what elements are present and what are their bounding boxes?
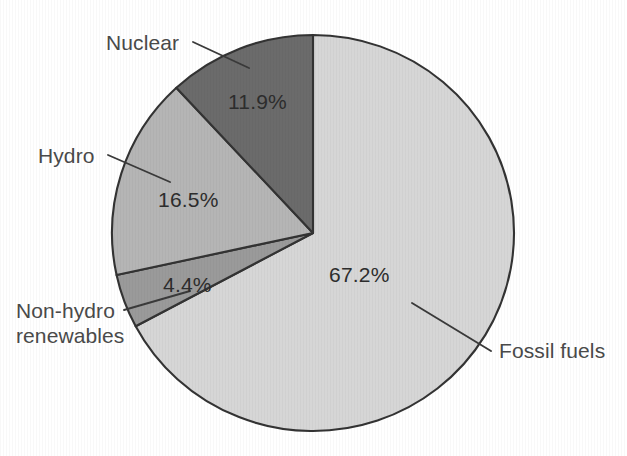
category-label-hydro: Hydro [38,144,95,167]
category-label-non-hydro-renewables-line1: Non-hydro [16,299,115,322]
slice-value-non-hydro-renewables: 4.4% [163,273,212,296]
category-label-nuclear: Nuclear [106,31,179,54]
category-label-non-hydro-renewables-line2: renewables [16,324,124,347]
pie-chart-figure: 11.9% 16.5% 4.4% 67.2% Nuclear Hydro Non… [0,0,627,456]
slice-value-fossil-fuels: 67.2% [329,263,390,286]
slice-value-nuclear: 11.9% [228,90,287,113]
pie-chart-canvas: 11.9% 16.5% 4.4% 67.2% Nuclear Hydro Non… [0,0,627,456]
slice-value-hydro: 16.5% [158,188,219,211]
category-label-fossil-fuels: Fossil fuels [499,339,605,362]
